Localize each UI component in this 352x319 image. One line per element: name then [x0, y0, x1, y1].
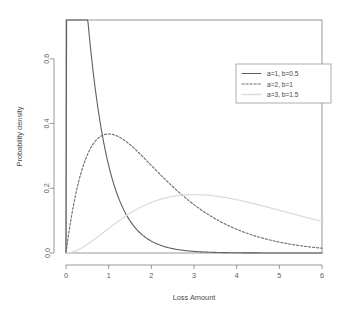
x-tick-label-4: 4: [235, 271, 239, 280]
curve-series-0: [66, 20, 322, 253]
legend-label-0: a=1, b=0.5: [267, 70, 299, 77]
x-tick-label-2: 2: [149, 271, 153, 280]
legend-label-1: a=2, b=1: [267, 81, 293, 88]
plot-box: [66, 20, 322, 253]
y-axis: 0.00.20.40.6: [43, 54, 55, 258]
axis-titles: Loss AmountProbability density: [15, 106, 215, 302]
plot-frame: [66, 20, 322, 253]
curve-series-2: [66, 195, 322, 253]
probability-density-chart: 0123456 0.00.20.40.6 Loss AmountProbabil…: [0, 0, 352, 319]
legend-label-2: a=3, b=1.5: [267, 91, 299, 98]
curve-series-group: [66, 20, 322, 253]
x-tick-label-0: 0: [64, 271, 68, 280]
x-axis-title: Loss Amount: [173, 293, 216, 302]
x-tick-label-6: 6: [320, 271, 324, 280]
x-tick-label-1: 1: [107, 271, 111, 280]
chart-legend: a=1, b=0.5a=2, b=1a=3, b=1.5: [236, 64, 331, 103]
curve-series-1: [66, 134, 322, 253]
y-tick-label-0: 0.0: [43, 248, 52, 258]
chart-figure: 0123456 0.00.20.40.6 Loss AmountProbabil…: [0, 0, 352, 319]
x-axis: 0123456: [64, 265, 324, 280]
x-tick-label-5: 5: [277, 271, 281, 280]
y-tick-label-1: 0.2: [43, 183, 52, 193]
y-axis-title: Probability density: [15, 106, 24, 166]
x-tick-label-3: 3: [192, 271, 196, 280]
y-tick-label-2: 0.4: [43, 119, 52, 129]
y-tick-label-3: 0.6: [43, 54, 52, 64]
